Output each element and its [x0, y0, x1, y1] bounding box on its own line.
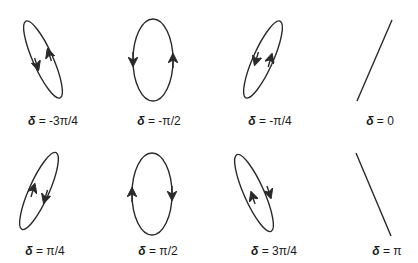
arrow-down-icon: [256, 52, 259, 61]
label-delta-0: δ = 0: [366, 114, 394, 128]
polarization-diagram: [0, 0, 418, 263]
label-value: = π/4: [33, 244, 65, 258]
line-delta-pi: [356, 153, 391, 236]
label-value: = 3π/4: [258, 244, 297, 258]
arrow-down-icon: [267, 186, 270, 194]
label-delta-pi-2: δ = π/2: [138, 244, 177, 258]
polarization-figure: δ = -3π/4 δ = -π/2 δ = -π/4 δ = 0 δ = π/…: [0, 0, 418, 263]
label-delta-pi: δ = π: [372, 244, 401, 258]
line-delta-0: [357, 20, 392, 101]
label-value: = 0: [373, 114, 393, 128]
ellipse-delta-neg-3pi-4: [17, 17, 69, 102]
label-value: = -π/4: [256, 114, 292, 128]
ellipse-delta-3pi-4: [228, 151, 280, 236]
ellipse-delta-pi-4: [13, 149, 65, 234]
label-value: = -π/2: [145, 114, 181, 128]
label-delta-neg-3pi-4: δ = -3π/4: [28, 114, 78, 128]
label-value: = π/2: [146, 244, 178, 258]
label-delta-neg-pi-2: δ = -π/2: [137, 114, 180, 128]
label-delta-pi-4: δ = π/4: [25, 244, 64, 258]
arrow-up-icon: [31, 188, 34, 197]
label-delta-neg-pi-4: δ = -π/4: [248, 114, 291, 128]
ellipse-delta-neg-pi-2: [133, 19, 173, 101]
arrow-up-icon: [252, 196, 255, 204]
label-delta-3pi-4: δ = 3π/4: [251, 244, 297, 258]
arrow-up-icon: [268, 58, 271, 67]
label-value: = π: [380, 244, 402, 258]
label-value: = -3π/4: [35, 114, 78, 128]
ellipse-delta-pi-2: [132, 153, 172, 235]
ellipse-delta-neg-pi-4: [237, 17, 289, 102]
